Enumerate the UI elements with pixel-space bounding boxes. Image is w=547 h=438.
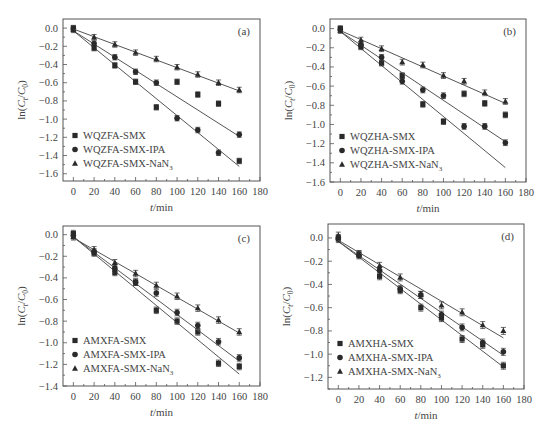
y-tick-label: −1.6 (306, 177, 325, 188)
circle-marker (195, 323, 201, 329)
square-marker (420, 102, 425, 107)
panel-label: (c) (238, 232, 251, 245)
circle-marker (399, 79, 405, 85)
triangle-marker (72, 160, 78, 165)
x-tick-label: 160 (231, 186, 247, 197)
x-tick-label: 180 (518, 187, 534, 198)
y-tick-label: 0.0 (45, 23, 58, 34)
x-axis-title: t/min (150, 201, 174, 213)
y-tick-label: −0.4 (39, 272, 59, 283)
legend: AMXHA-SMXAMXHA-SMX-IPAAMXHA-SMX-NaN3 (337, 338, 441, 380)
triangle-marker (358, 37, 364, 42)
legend-label: WQZHA-SMX-IPA (350, 145, 435, 156)
y-tick-label: −1.4 (306, 157, 326, 168)
square-marker (216, 361, 221, 366)
triangle-marker (335, 232, 341, 237)
x-axis-title: t/min (416, 202, 440, 214)
x-axis-title: t/min (150, 406, 174, 418)
legend-label: WQZFA-SMX (83, 130, 146, 141)
x-tick-label: 160 (231, 391, 247, 402)
square-marker (195, 92, 200, 97)
circle-marker (216, 339, 222, 345)
square-marker (237, 364, 242, 369)
x-tick-label: 40 (376, 187, 387, 198)
panel-label: (b) (503, 25, 516, 38)
circle-marker (459, 325, 465, 331)
x-tick-label: 60 (397, 187, 408, 198)
series-wqzha-smx-ipa (338, 27, 509, 146)
y-tick-label: −0.2 (304, 256, 323, 267)
circle-marker (480, 340, 486, 346)
y-tick-label: −1.0 (39, 337, 58, 348)
x-tick-label: 80 (416, 394, 427, 405)
triangle-marker (91, 247, 97, 252)
chart-panel-a: 0204060801001201401601800.0−0.2−0.4−0.6−… (15, 19, 268, 213)
y-tick-label: −0.2 (39, 41, 58, 52)
square-marker (72, 133, 77, 138)
x-tick-label: 60 (130, 186, 141, 197)
y-tick-label: −1.0 (39, 114, 58, 125)
legend-label: AMXHA-SMX (348, 338, 414, 349)
x-tick-label: 80 (151, 391, 162, 402)
legend-label: AMXFA-SMX (83, 335, 147, 346)
y-tick-label: −0.4 (39, 59, 59, 70)
x-tick-label: 20 (356, 187, 367, 198)
circle-marker (420, 87, 426, 93)
triangle-marker (339, 161, 345, 166)
triangle-marker (399, 59, 405, 64)
x-tick-label: 180 (252, 186, 268, 197)
x-tick-label: 120 (456, 187, 472, 198)
y-tick-label: −1.0 (304, 349, 323, 360)
fit-line (340, 31, 505, 141)
x-tick-label: 100 (169, 391, 185, 402)
square-marker (462, 91, 467, 96)
circle-marker (91, 41, 97, 47)
legend: WQZFA-SMXWQZFA-SMX-IPAWQZFA-SMX-NaN3 (72, 130, 173, 172)
x-tick-label: 20 (89, 391, 100, 402)
x-tick-label: 60 (130, 391, 141, 402)
figure: 0204060801001201401601800.0−0.2−0.4−0.6−… (0, 0, 547, 438)
legend-label: AMXHA-SMX-NaN3 (348, 366, 441, 380)
circle-marker (461, 124, 467, 130)
square-marker (501, 363, 506, 368)
circle-marker (174, 115, 180, 121)
circle-marker (195, 127, 201, 133)
y-tick-label: −0.6 (306, 81, 325, 92)
triangle-marker (420, 62, 426, 67)
square-marker (460, 336, 465, 341)
square-marker (337, 341, 342, 346)
x-tick-label: 120 (190, 186, 206, 197)
circle-marker (236, 132, 242, 138)
circle-marker (503, 140, 509, 146)
chart-panel-b: 0204060801001201401601800.0−0.2−0.4−0.6−… (282, 19, 534, 214)
legend: AMXFA-SMXAMXFA-SMX-IPAAMXFA-SMX-NaN3 (72, 335, 174, 377)
square-marker (154, 105, 159, 110)
panel-label: (a) (238, 25, 251, 38)
plot-frame (328, 224, 524, 389)
circle-marker (441, 93, 447, 99)
y-tick-label: −0.6 (39, 294, 58, 305)
circle-marker (397, 286, 403, 292)
legend-label: WQZFA-SMX-NaN3 (83, 158, 173, 172)
x-axis-title: t/min (414, 409, 438, 421)
x-tick-label: 0 (71, 391, 76, 402)
legend-label: AMXHA-SMX-IPA (348, 352, 434, 363)
y-axis-title: ln(Ct/C0) (280, 286, 295, 326)
y-tick-label: −0.6 (304, 302, 323, 313)
x-tick-label: 0 (71, 186, 76, 197)
y-tick-label: −0.8 (306, 100, 325, 111)
x-tick-label: 0 (338, 187, 343, 198)
square-marker (237, 158, 242, 163)
x-tick-label: 20 (89, 186, 100, 197)
series-amxha-smx-nan3 (335, 232, 506, 338)
y-tick-label: −1.0 (306, 119, 325, 130)
y-tick-label: −0.2 (306, 42, 325, 53)
square-marker (377, 274, 382, 279)
square-marker (418, 305, 423, 310)
x-tick-label: 160 (497, 187, 513, 198)
y-tick-label: 0.0 (45, 229, 58, 240)
y-tick-label: −0.4 (304, 279, 324, 290)
triangle-marker (337, 368, 343, 373)
triangle-marker (502, 98, 508, 103)
legend: WQZHA-SMXWQZHA-SMX-IPAWQZHA-SMX-NaN3 (339, 131, 443, 173)
